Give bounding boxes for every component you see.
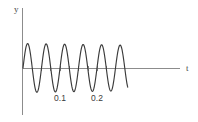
x-axis-label: t [186,63,189,73]
x-tick-label-0: 0.1 [54,93,66,103]
y-axis-label: y [14,4,19,14]
plot-figure: y t 0.1 0.2 [0,0,198,122]
x-tick-label-1: 0.2 [91,93,103,103]
plot-canvas: y t 0.1 0.2 [0,0,198,122]
